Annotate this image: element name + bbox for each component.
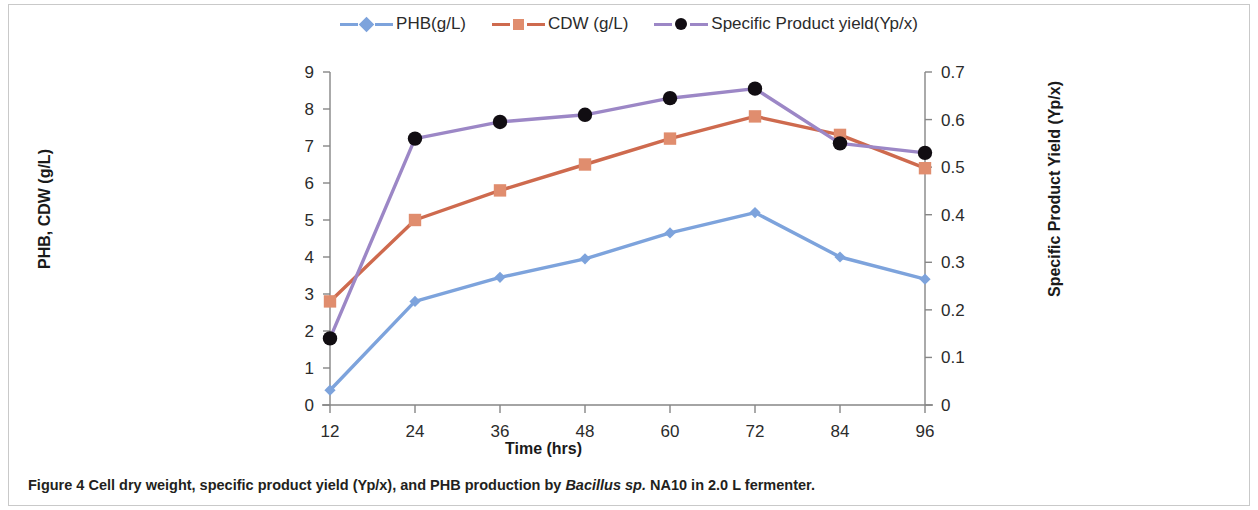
- y-left-tick-label: 7: [305, 137, 314, 156]
- y-right-tick-label: 0.1: [941, 348, 965, 367]
- caption-figure-number: Figure 4: [28, 477, 84, 493]
- circle-marker-icon: [408, 131, 422, 145]
- figure-frame-bottom: [8, 505, 1250, 506]
- x-tick-label: 36: [491, 422, 510, 441]
- square-marker-icon: [494, 184, 506, 196]
- y-left-tick-label: 0: [305, 396, 314, 415]
- y-left-tick-label: 4: [305, 248, 314, 267]
- square-marker-icon: [919, 162, 931, 174]
- square-marker-icon: [324, 295, 336, 307]
- y-left-tick-label: 6: [305, 174, 314, 193]
- caption-text-after: NA10 in 2.0 L fermenter.: [646, 477, 815, 493]
- diamond-marker-icon: [579, 253, 590, 264]
- x-tick-label: 24: [406, 422, 425, 441]
- y-right-tick-label: 0.3: [941, 253, 965, 272]
- caption-species-name: Bacillus sp.: [565, 477, 646, 493]
- y-right-tick-label: 0.7: [941, 63, 965, 82]
- y-left-tick-label: 5: [305, 211, 314, 230]
- y-left-tick-label: 2: [305, 322, 314, 341]
- y-right-tick-label: 0.5: [941, 158, 965, 177]
- y-right-tick-label: 0.2: [941, 301, 965, 320]
- diamond-marker-icon: [494, 272, 505, 283]
- x-tick-label: 96: [916, 422, 935, 441]
- y-left-tick-label: 1: [305, 359, 314, 378]
- x-tick-label: 84: [831, 422, 850, 441]
- x-tick-label: 12: [321, 422, 340, 441]
- caption-text-before: Cell dry weight, specific product yield …: [84, 477, 565, 493]
- square-marker-icon: [664, 132, 676, 144]
- y-left-tick-label: 9: [305, 63, 314, 82]
- y-axis-left-title: PHB, CDW (g/L): [36, 109, 54, 309]
- square-marker-icon: [409, 214, 421, 226]
- circle-marker-icon: [493, 115, 507, 129]
- diamond-marker-icon: [919, 274, 930, 285]
- y-left-tick-label: 3: [305, 285, 314, 304]
- y-axis-right-title: Specific Product Yield (Yp/x): [1046, 54, 1064, 324]
- chart-plot-area: 012345678900.10.20.30.40.50.60.712243648…: [0, 0, 1258, 465]
- circle-marker-icon: [663, 91, 677, 105]
- y-left-tick-label: 8: [305, 100, 314, 119]
- x-tick-label: 48: [576, 422, 595, 441]
- square-marker-icon: [749, 110, 761, 122]
- chart-svg: 012345678900.10.20.30.40.50.60.712243648…: [0, 0, 1258, 465]
- square-marker-icon: [579, 158, 591, 170]
- series-phb-g-l-: [324, 207, 930, 396]
- circle-marker-icon: [833, 136, 847, 150]
- circle-marker-icon: [578, 108, 592, 122]
- x-tick-label: 72: [746, 422, 765, 441]
- x-axis-title: Time (hrs): [505, 440, 582, 458]
- y-right-tick-label: 0: [941, 396, 950, 415]
- y-right-tick-label: 0.6: [941, 111, 965, 130]
- diamond-marker-icon: [664, 227, 675, 238]
- x-tick-label: 60: [661, 422, 680, 441]
- y-right-tick-label: 0.4: [941, 206, 965, 225]
- figure-caption: Figure 4 Cell dry weight, specific produ…: [28, 476, 1228, 494]
- circle-marker-icon: [918, 146, 932, 160]
- figure-container: PHB(g/L) CDW (g/L) Specific Product yiel…: [0, 0, 1258, 510]
- circle-marker-icon: [323, 331, 337, 345]
- circle-marker-icon: [748, 81, 762, 95]
